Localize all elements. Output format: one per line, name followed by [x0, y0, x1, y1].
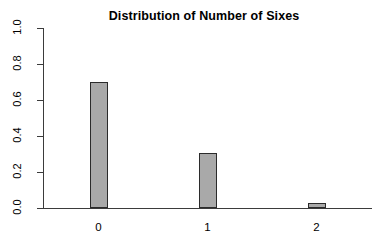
y-axis-tick-label: 0.6	[11, 82, 23, 116]
y-axis-tick-label: 0.4	[11, 118, 23, 152]
y-axis-tick-label-wrapper: 0.8	[0, 57, 34, 71]
y-axis-tick-label: 0.0	[11, 190, 23, 224]
bar	[308, 203, 326, 208]
y-axis-tick	[37, 64, 43, 65]
y-axis-tick-label-wrapper: 1.0	[0, 21, 34, 35]
y-axis-tick	[37, 28, 43, 29]
y-axis-tick-label: 0.2	[11, 154, 23, 188]
y-axis-tick-label: 1.0	[11, 10, 23, 44]
y-axis-tick	[37, 172, 43, 173]
chart-title: Distribution of Number of Sixes	[0, 9, 386, 23]
bar	[90, 82, 108, 208]
x-axis-tick-label: 1	[188, 221, 228, 233]
x-axis-line	[44, 208, 372, 209]
y-axis-tick-label-wrapper: 0.6	[0, 93, 34, 107]
y-axis-tick	[37, 100, 43, 101]
y-axis-tick-label-wrapper: 0.2	[0, 165, 34, 179]
y-axis-tick	[37, 136, 43, 137]
y-axis-tick-label-wrapper: 0.4	[0, 129, 34, 143]
x-axis-tick-label: 2	[297, 221, 337, 233]
bar-chart-figure: Distribution of Number of Sixes 0.00.20.…	[0, 0, 386, 251]
y-axis-tick-label: 0.8	[11, 46, 23, 80]
y-axis-tick-label-wrapper: 0.0	[0, 201, 34, 215]
plot-area	[44, 28, 371, 208]
bar	[199, 153, 217, 208]
x-axis-tick-label: 0	[79, 221, 119, 233]
y-axis-tick	[37, 208, 43, 209]
